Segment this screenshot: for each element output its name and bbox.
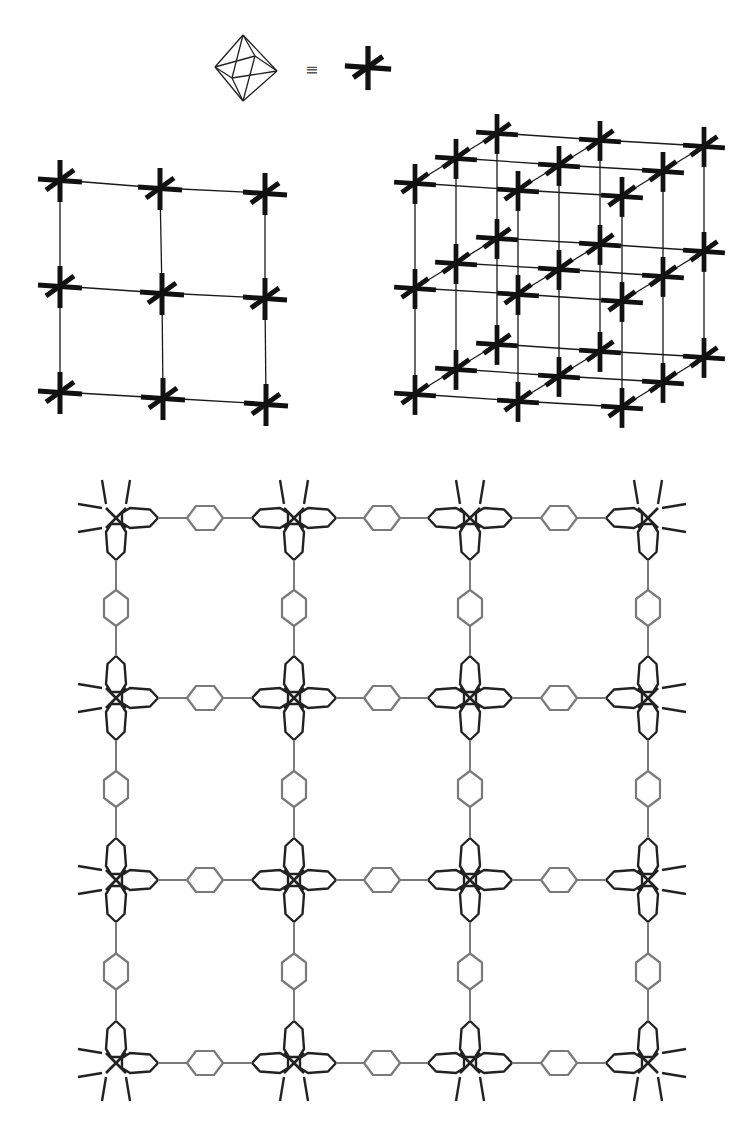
- carboxylate-lobe: [638, 656, 658, 692]
- carboxylate-lobe: [122, 870, 158, 890]
- benzene-ring: [364, 868, 400, 892]
- carboxylate-lobe: [638, 524, 658, 560]
- benzene-ring: [364, 686, 400, 710]
- node-icon: [244, 384, 288, 426]
- metal-node: [78, 838, 158, 922]
- carboxylate-lobe: [122, 688, 158, 708]
- metal-node: [252, 838, 336, 922]
- node-icon: [538, 146, 580, 186]
- metal-node: [252, 1021, 336, 1101]
- benzene-ring: [636, 590, 660, 626]
- carboxylate-lobe: [460, 524, 480, 560]
- node-icon: [435, 139, 477, 179]
- carboxylate-lobe: [252, 1053, 288, 1073]
- carboxylate-lobe: [106, 704, 126, 740]
- node-icon: [38, 266, 82, 308]
- benzene-ring: [104, 771, 128, 807]
- carboxylate-lobe: [428, 508, 464, 528]
- terminal-stub: [78, 708, 102, 712]
- terminal-stub: [456, 480, 460, 504]
- terminal-stub: [662, 890, 686, 894]
- node-icon: [394, 164, 436, 204]
- carboxylate-lobe: [106, 524, 126, 560]
- carboxylate-lobe: [300, 1053, 336, 1073]
- metal-node: [428, 1021, 512, 1101]
- carboxylate-lobe: [252, 508, 288, 528]
- terminal-stub: [78, 890, 102, 894]
- node-icon: [538, 357, 580, 397]
- carboxylate-lobe: [284, 838, 304, 874]
- node-icon: [642, 152, 684, 192]
- node-icon: [642, 257, 684, 297]
- terminal-stub: [78, 504, 102, 508]
- benzene-ring: [282, 771, 306, 807]
- metal-node: [606, 838, 686, 922]
- node-icon: [243, 173, 287, 215]
- carboxylate-lobe: [284, 704, 304, 740]
- carboxylate-lobe: [606, 508, 642, 528]
- benzene-ring: [364, 506, 400, 530]
- carboxylate-lobe: [106, 1021, 126, 1057]
- node-icon: [243, 278, 287, 320]
- node-icon: [476, 114, 518, 154]
- carboxylate-lobe: [300, 508, 336, 528]
- node-icon: [497, 275, 539, 315]
- metal-node: [606, 480, 686, 560]
- metal-node: [78, 656, 158, 740]
- node-icon: [435, 244, 477, 284]
- node-icon: [538, 250, 580, 290]
- terminal-stub: [480, 480, 484, 504]
- metal-node: [428, 656, 512, 740]
- carboxylate-lobe: [638, 1021, 658, 1057]
- carboxylate-lobe: [284, 1021, 304, 1057]
- benzene-ring: [636, 771, 660, 807]
- terminal-stub: [78, 866, 102, 870]
- metal-node: [428, 480, 512, 560]
- cube-3d-svg: [380, 100, 750, 440]
- carboxylate-lobe: [300, 688, 336, 708]
- node-icon: [497, 382, 539, 422]
- carboxylate-lobe: [300, 870, 336, 890]
- octahedron-edge: [243, 56, 255, 101]
- benzene-ring: [187, 686, 223, 710]
- node-icon: [601, 177, 643, 217]
- terminal-stub: [456, 1077, 460, 1101]
- carboxylate-lobe: [122, 508, 158, 528]
- terminal-stub: [662, 1049, 686, 1053]
- carboxylate-lobe: [428, 688, 464, 708]
- terminal-stub: [662, 866, 686, 870]
- carboxylate-lobe: [106, 656, 126, 692]
- benzene-ring: [458, 771, 482, 807]
- benzene-ring: [458, 590, 482, 626]
- terminal-stub: [102, 1077, 106, 1101]
- carboxylate-lobe: [476, 1053, 512, 1073]
- node-icon: [642, 363, 684, 403]
- node-icon: [579, 332, 621, 372]
- node-icon: [601, 282, 643, 322]
- node-icon: [476, 325, 518, 365]
- benzene-ring: [104, 590, 128, 626]
- terminal-stub: [662, 504, 686, 508]
- node-icon: [141, 378, 185, 420]
- carboxylate-lobe: [606, 1053, 642, 1073]
- carboxylate-lobe: [252, 870, 288, 890]
- metal-node: [428, 838, 512, 922]
- carboxylate-lobe: [460, 704, 480, 740]
- terminal-stub: [658, 480, 662, 504]
- metal-node: [252, 480, 336, 560]
- carboxylate-lobe: [284, 656, 304, 692]
- six-connected-node-icon: [345, 46, 391, 90]
- terminal-stub: [662, 684, 686, 688]
- carboxylate-lobe: [106, 886, 126, 922]
- carboxylate-lobe: [606, 688, 642, 708]
- terminal-stub: [662, 708, 686, 712]
- terminal-stub: [658, 1077, 662, 1101]
- cube-3d-diagram: [380, 100, 750, 440]
- carboxylate-lobe: [638, 704, 658, 740]
- node-icon: [435, 350, 477, 390]
- terminal-stub: [78, 684, 102, 688]
- octahedron-edge: [215, 67, 243, 101]
- terminal-stub: [304, 480, 308, 504]
- benzene-ring: [541, 1051, 577, 1075]
- terminal-stub: [126, 1077, 130, 1101]
